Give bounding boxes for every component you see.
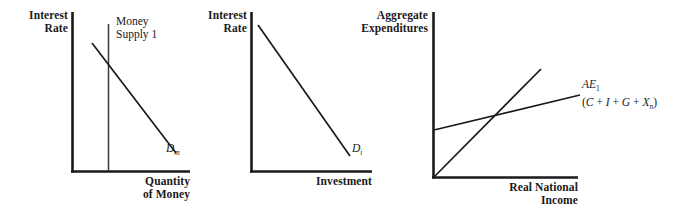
investment-demand-curve-label: Di bbox=[352, 142, 362, 157]
panel-2-y-axis-label: Interest Rate bbox=[189, 9, 247, 34]
panel-3-aggregate-expenditures bbox=[432, 12, 580, 179]
panel-3-x-axis-label: Real National Income bbox=[490, 181, 578, 206]
ae-label-line2: (C + I + G + Xn) bbox=[582, 96, 657, 114]
money-demand-curve bbox=[92, 43, 176, 153]
investment-demand-curve bbox=[258, 25, 350, 156]
money-demand-curve-label: Dm bbox=[166, 142, 180, 157]
money-supply-label: Money Supply 1 bbox=[116, 15, 190, 41]
ae-curve-label: AE1 (C + I + G + Xn) bbox=[582, 78, 657, 114]
economics-three-panel-figure: Interest Rate Money Supply 1 Dm Quantity… bbox=[0, 0, 682, 218]
ae-label-line1: AE1 bbox=[582, 78, 657, 96]
panel-2-x-axis-label: Investment bbox=[298, 175, 372, 188]
panel-1-x-axis-label: Quantity of Money bbox=[118, 175, 190, 200]
panel-1-y-axis-label: Interest Rate bbox=[10, 9, 68, 34]
ae-curve bbox=[434, 95, 580, 130]
panel-3-y-axis-label: Aggregate Expenditures bbox=[346, 9, 428, 34]
forty-five-degree-line bbox=[434, 69, 541, 177]
